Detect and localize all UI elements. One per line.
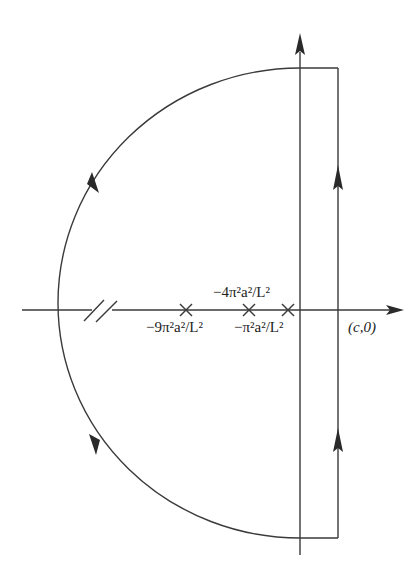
bromwich-line (300, 68, 343, 538)
point-c-label: (c,0) (348, 319, 376, 336)
closing-arc (58, 68, 300, 538)
imaginary-axis (295, 33, 305, 555)
axis-break-marks (84, 300, 117, 322)
pole-label-4: −4π²a²/L² (213, 284, 271, 300)
real-axis (22, 305, 404, 315)
pole-label-9: −9π²a²/L² (146, 319, 204, 335)
imaginary-axis-arrow-icon (295, 33, 305, 55)
arc-arrow-icon (89, 434, 100, 455)
pole-label-1: −π²a²/L² (234, 319, 284, 335)
contour-diagram: −4π²a²/L² −9π²a²/L² −π²a²/L² (c,0) (0, 0, 417, 576)
